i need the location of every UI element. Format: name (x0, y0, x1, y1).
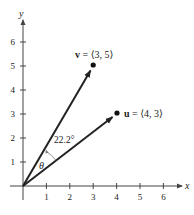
angle-marker: θ 22.2° (39, 135, 75, 171)
x-axis-label: x (184, 180, 190, 191)
theta-label: θ (39, 160, 44, 171)
x-tick-labels: 1 2 3 4 5 6 (44, 192, 166, 202)
x-tick-label: 6 (161, 192, 166, 202)
point-u (114, 110, 119, 115)
y-tick-label: 3 (11, 109, 16, 119)
vector-u: u = ⟨4, 3⟩ (23, 108, 163, 186)
y-tick-label: 4 (11, 85, 16, 95)
x-tick-label: 2 (68, 192, 73, 202)
point-v (91, 62, 96, 67)
x-tick-label: 5 (138, 192, 143, 202)
angle-value-label: 22.2° (54, 135, 75, 145)
vector-u-label: u = ⟨4, 3⟩ (124, 108, 163, 119)
y-tick-label: 6 (11, 37, 16, 47)
y-axis: y (18, 8, 24, 200)
vector-angle-diagram: x y 1 2 3 4 5 6 1 2 3 4 5 6 (0, 0, 194, 215)
vector-v: v = ⟨3, 5⟩ (23, 49, 114, 186)
vector-v-label: v = ⟨3, 5⟩ (75, 49, 114, 60)
y-tick-label: 2 (11, 133, 16, 143)
x-tick-label: 1 (44, 192, 49, 202)
y-tick-labels: 1 2 3 4 5 6 (11, 37, 16, 167)
x-tick-label: 4 (114, 192, 119, 202)
y-tick-label: 1 (11, 157, 16, 167)
y-tick-label: 5 (11, 61, 16, 71)
y-axis-label: y (18, 8, 24, 19)
x-tick-label: 3 (91, 192, 96, 202)
